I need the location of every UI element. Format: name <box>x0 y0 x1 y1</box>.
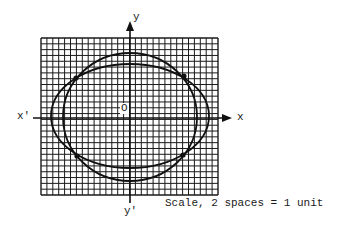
intersection-point <box>181 73 186 78</box>
x-axis-label: x <box>237 112 244 123</box>
intersection-point <box>73 75 78 80</box>
x-neg-axis-label: x' <box>17 111 30 122</box>
intersection-point <box>180 152 185 157</box>
x-axis-arrow-icon <box>222 114 232 122</box>
scale-note: Scale, 2 spaces = 1 unit <box>165 198 323 209</box>
y-axis-label: y <box>133 12 140 23</box>
y-neg-axis-label: y' <box>124 206 137 217</box>
intersection-point <box>74 153 79 158</box>
origin-label: O <box>120 103 129 114</box>
